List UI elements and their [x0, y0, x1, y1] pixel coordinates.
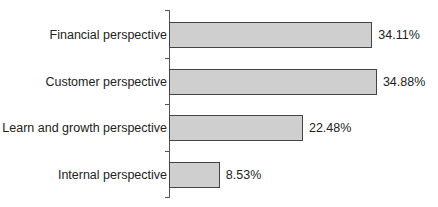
bar-learn-growth	[169, 115, 303, 141]
bar-row-financial: Financial perspective 34.11%	[0, 22, 438, 48]
bar-row-internal: Internal perspective 8.53%	[0, 162, 438, 188]
bar-financial	[169, 22, 372, 48]
bar-customer	[169, 69, 377, 95]
value-label: 34.88%	[383, 69, 425, 95]
axis-tick	[165, 10, 169, 11]
bar-row-learn-growth: Learn and growth perspective 22.48%	[0, 115, 438, 141]
value-label: 22.48%	[309, 115, 351, 141]
category-label: Financial perspective	[50, 22, 167, 48]
horizontal-bar-chart: Financial perspective 34.11% Customer pe…	[0, 0, 438, 207]
bar-internal	[169, 162, 220, 188]
axis-tick	[165, 58, 169, 59]
category-label: Learn and growth perspective	[2, 115, 167, 141]
axis-tick	[165, 197, 169, 198]
axis-tick	[165, 104, 169, 105]
value-label: 8.53%	[226, 162, 261, 188]
value-label: 34.11%	[378, 22, 419, 48]
category-label: Internal perspective	[58, 162, 167, 188]
bar-row-customer: Customer perspective 34.88%	[0, 69, 438, 95]
category-label: Customer perspective	[45, 69, 167, 95]
axis-tick	[165, 151, 169, 152]
